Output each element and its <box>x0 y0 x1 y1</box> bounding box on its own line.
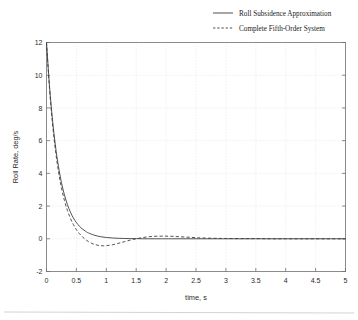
chart-figure: 00.511.522.533.544.55 -2024681012 time, … <box>0 0 358 320</box>
x-tick-label: 3 <box>224 277 228 284</box>
series-line-1 <box>47 43 346 239</box>
x-tick-label: 1 <box>104 277 108 284</box>
x-tick-label: 3.5 <box>251 277 261 284</box>
y-tick-label: 8 <box>39 105 43 112</box>
y-tick-label: 4 <box>39 170 43 177</box>
y-tick-label: 10 <box>35 72 43 79</box>
x-tick-label: 5 <box>344 277 348 284</box>
x-tick-label: 0.5 <box>72 277 82 284</box>
x-axis-title: time, s <box>185 293 207 302</box>
page-bottom-rule <box>4 312 354 313</box>
x-tick-label: 0 <box>45 277 49 284</box>
y-tick-label: -2 <box>36 268 42 275</box>
chart-canvas: 00.511.522.533.544.55 -2024681012 time, … <box>0 0 358 320</box>
y-tick-label: 2 <box>39 203 43 210</box>
y-tick-label: 0 <box>39 235 43 242</box>
x-tick-label: 4 <box>284 277 288 284</box>
chart-gridlines <box>47 43 346 272</box>
y-axis-title: Roll Rate, deg/s <box>11 130 20 183</box>
x-tick-label: 2.5 <box>191 277 201 284</box>
x-tick-label: 4.5 <box>311 277 321 284</box>
legend-label: Roll Subsidence Approximation <box>239 10 332 18</box>
x-axis-ticks: 00.511.522.533.544.55 <box>45 268 348 284</box>
y-tick-label: 6 <box>39 137 43 144</box>
chart-legend: Roll Subsidence ApproximationComplete Fi… <box>213 10 332 33</box>
y-axis-ticks: -2024681012 <box>35 39 346 275</box>
x-tick-label: 1.5 <box>131 277 141 284</box>
x-tick-label: 2 <box>164 277 168 284</box>
legend-label: Complete Fifth-Order System <box>239 25 325 33</box>
y-tick-label: 12 <box>35 39 43 46</box>
